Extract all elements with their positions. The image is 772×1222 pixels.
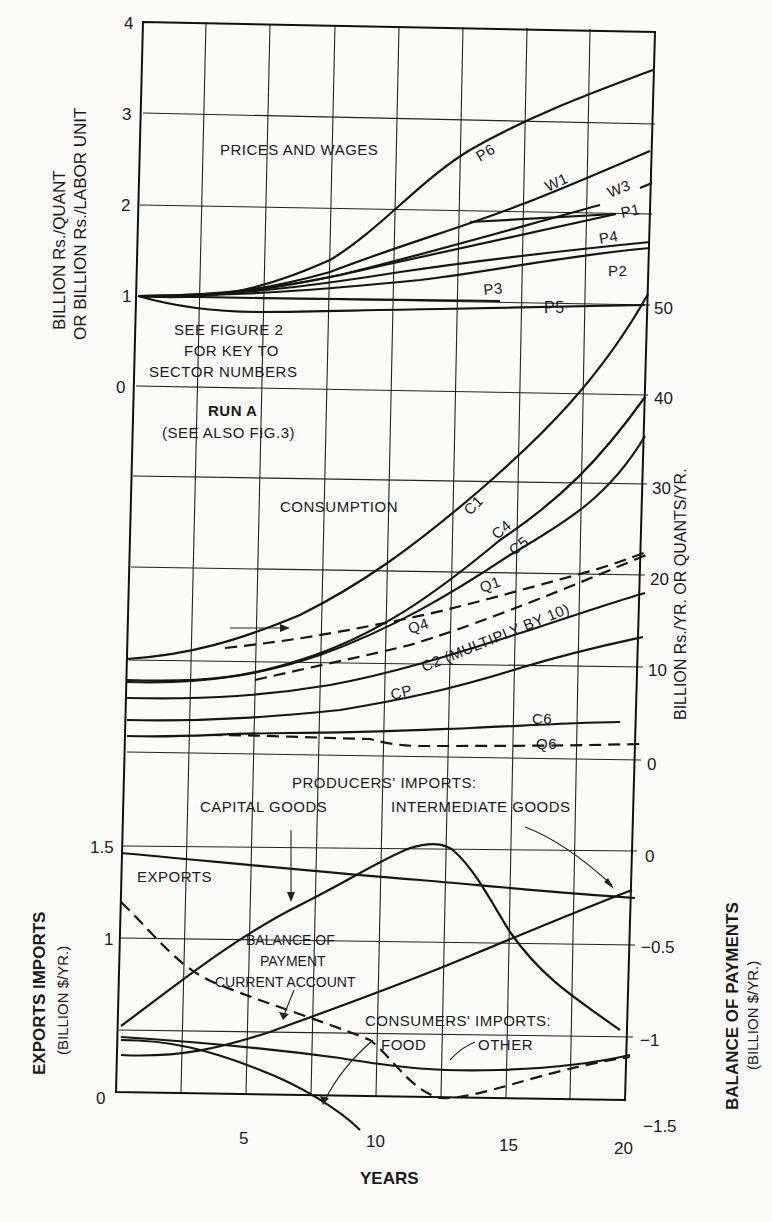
figure-chart: 4 3 2 1 0 50 40 30 20 10 0 1.5 1 0 0 −0.…: [0, 0, 772, 1222]
see-figure-line1: SEE FIGURE 2: [174, 321, 283, 338]
top-left-ticks: 4 3 2 1 0: [116, 14, 133, 397]
svg-text:40: 40: [654, 389, 673, 408]
bottom-left-ticks: 1.5 1 0: [90, 838, 114, 1108]
label-q4: Q4: [406, 614, 431, 637]
consumption-axis-title: BILLION Rs./YR. OR QUANTS/YR.: [672, 468, 689, 720]
label-p3: P3: [483, 279, 504, 298]
svg-text:10: 10: [648, 661, 667, 680]
curve-p3: [138, 296, 500, 301]
bop-label-1: BALANCE OF: [246, 932, 335, 948]
svg-text:4: 4: [124, 14, 133, 33]
mid-right-ticks: 50 40 30 20 10 0: [647, 299, 673, 774]
label-c6: C6: [532, 710, 552, 727]
consumption-curves: [127, 294, 648, 746]
svg-text:15: 15: [499, 1136, 518, 1155]
label-c1: C1: [460, 492, 486, 518]
curve-q6: [210, 735, 640, 746]
consumers-imports-label: CONSUMERS' IMPORTS:: [365, 1012, 551, 1029]
label-p2: P2: [608, 262, 627, 279]
label-p5: P5: [544, 299, 565, 316]
label-p4: P4: [598, 227, 620, 247]
label-p1: P1: [619, 200, 641, 221]
curve-balance-of-payment: [121, 902, 630, 1098]
svg-text:−1.5: −1.5: [643, 1117, 677, 1136]
label-w1: W1: [542, 169, 570, 194]
label-p6: P6: [473, 140, 498, 165]
run-label: RUN A: [208, 402, 257, 419]
see-figure-line2: FOR KEY TO: [184, 342, 279, 359]
svg-text:0: 0: [647, 755, 656, 774]
svg-text:0: 0: [116, 378, 125, 397]
x-ticks: 5 10 15 20: [239, 1129, 633, 1158]
top-axis-title-1: BILLION Rs./QUANT: [50, 170, 69, 330]
producers-imports-label: PRODUCERS' IMPORTS:: [292, 774, 477, 791]
svg-text:−1: −1: [640, 1031, 659, 1050]
intermediate-goods-label: INTERMEDIATE GOODS: [391, 798, 571, 815]
trade-right-axis-title-2: (BILLION $/YR.): [744, 961, 761, 1070]
label-cp: CP: [389, 681, 414, 703]
svg-text:50: 50: [654, 299, 673, 318]
svg-text:10: 10: [366, 1132, 385, 1151]
trade-right-axis-title-1: BALANCE OF PAYMENTS: [723, 902, 742, 1110]
food-label: FOOD: [381, 1036, 426, 1053]
svg-text:3: 3: [122, 105, 131, 124]
top-axis-title-2: OR BILLION Rs./LABOR UNIT: [71, 108, 90, 340]
svg-text:1: 1: [122, 287, 131, 306]
exports-label: EXPORTS: [137, 868, 212, 885]
curve-q1: [225, 552, 646, 648]
bop-label-2: PAYMENT: [260, 953, 326, 969]
label-q6: Q6: [536, 735, 557, 752]
curve-consumers-other: [121, 1037, 630, 1071]
svg-text:−0.5: −0.5: [641, 938, 675, 957]
label-w3: W3: [605, 176, 633, 201]
see-also-label: (SEE ALSO FIG.3): [162, 424, 295, 441]
svg-text:2: 2: [121, 196, 130, 215]
annotation-arrows: [230, 624, 614, 1105]
svg-text:0: 0: [645, 847, 654, 866]
see-figure-line3: SECTOR NUMBERS: [149, 363, 297, 380]
svg-text:0: 0: [96, 1089, 105, 1108]
label-q1: Q1: [477, 573, 503, 596]
capital-goods-label: CAPITAL GOODS: [200, 798, 327, 815]
label-c4: C4: [488, 516, 514, 542]
trade-left-axis-title-2: (BILLION $/YR.): [54, 946, 71, 1055]
svg-text:20: 20: [614, 1139, 633, 1158]
svg-text:1: 1: [104, 930, 113, 949]
bop-label-3: CURRENT ACCOUNT: [215, 974, 356, 990]
svg-text:1.5: 1.5: [90, 838, 114, 857]
other-label: OTHER: [478, 1036, 533, 1053]
prices-title: PRICES AND WAGES: [220, 141, 378, 158]
bottom-right-ticks: 0 −0.5 −1 −1.5: [640, 847, 677, 1136]
svg-text:5: 5: [239, 1129, 248, 1148]
svg-text:20: 20: [650, 570, 669, 589]
svg-text:30: 30: [652, 479, 671, 498]
consumption-title: CONSUMPTION: [280, 498, 398, 515]
x-axis-title: YEARS: [360, 1169, 419, 1188]
curve-consumers-food: [121, 1040, 360, 1130]
trade-left-axis-title-1: EXPORTS IMPORTS: [30, 912, 49, 1075]
